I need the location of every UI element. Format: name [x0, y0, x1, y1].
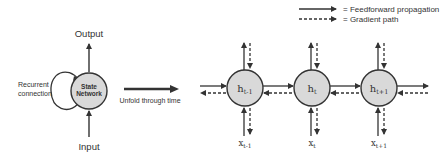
unfold-label: Unfold through time — [119, 97, 180, 105]
unfolded-node-t: ht xt — [294, 43, 330, 149]
legend-gradient-label: = Gradient path — [343, 15, 398, 24]
input-x-label: xt — [308, 138, 316, 149]
legend: = Feedforward propagation = Gradient pat… — [299, 5, 439, 24]
unfold-arrowhead-icon — [170, 85, 179, 93]
unfold-arrow: Unfold through time — [119, 85, 180, 105]
recurrent-label-line2: connection — [18, 90, 52, 97]
input-x-label: xt+1 — [371, 138, 387, 149]
unfolded-node-t-plus-1: ht+1 xt+1 — [361, 43, 397, 149]
folded-network: Output State Network Input Recurrent con… — [18, 28, 107, 152]
output-label: Output — [75, 28, 104, 39]
legend-feedforward-label: = Feedforward propagation — [343, 5, 439, 14]
rnn-unfolding-diagram: = Feedforward propagation = Gradient pat… — [0, 0, 448, 158]
state-network-label-line2: Network — [76, 90, 102, 97]
input-label: Input — [78, 141, 99, 152]
recurrent-label-line1: Recurrent — [18, 81, 49, 88]
unfolded-node-t-minus-1: ht-1 xt-1 — [227, 43, 263, 149]
input-x-label: xt-1 — [238, 138, 251, 149]
state-network-label-line1: State — [81, 83, 97, 90]
